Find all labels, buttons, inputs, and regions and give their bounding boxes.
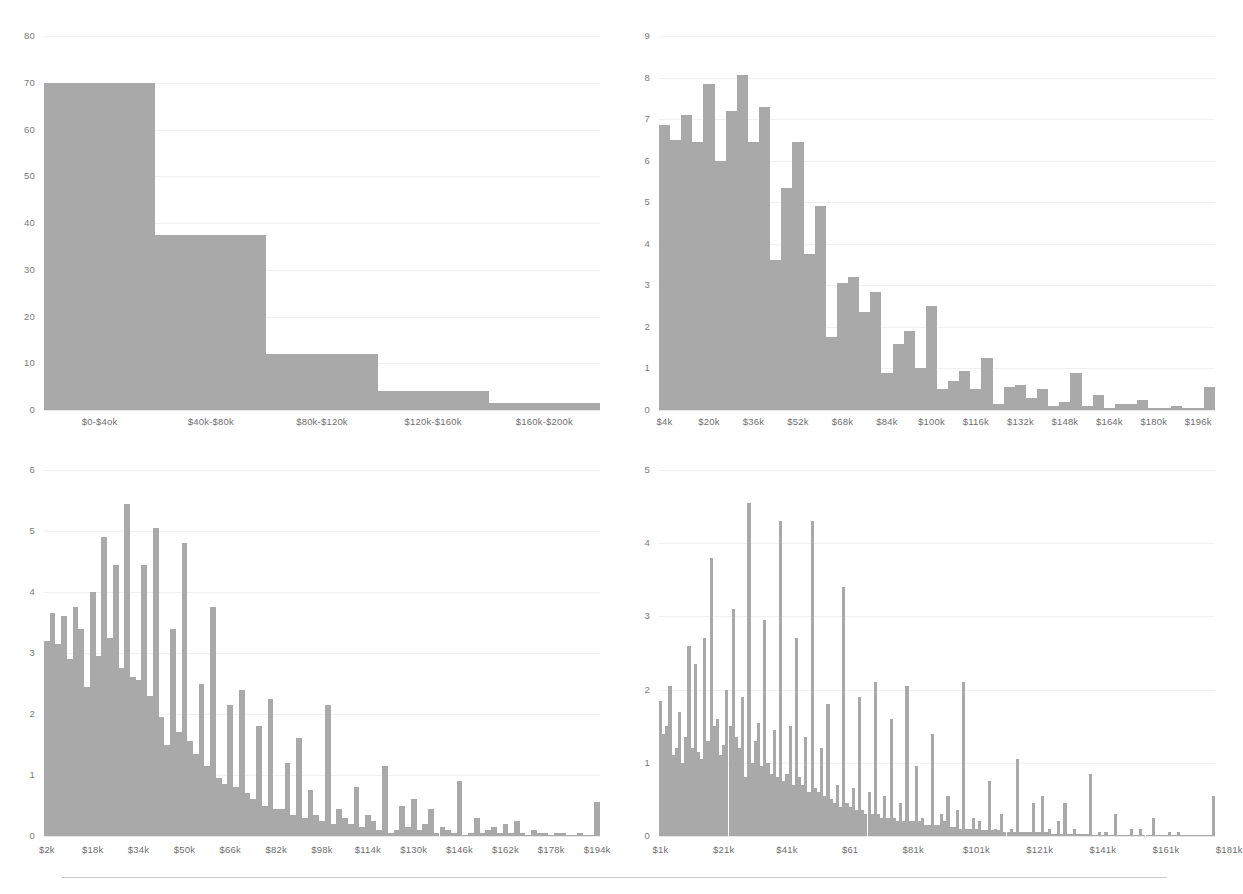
histogram-bar — [926, 306, 937, 410]
x-axis-tick-label: $1k — [653, 844, 669, 855]
gridline — [44, 36, 600, 37]
y-axis-tick-label: 2 — [30, 709, 44, 719]
histogram-bar — [1037, 389, 1048, 410]
y-axis-tick-label: 8 — [645, 73, 659, 83]
histogram-bar — [905, 686, 908, 836]
x-axis-tick-label: $194k — [584, 844, 611, 855]
histogram-bar — [970, 389, 981, 410]
histogram-bar — [1063, 803, 1066, 836]
histogram-bar — [815, 206, 826, 410]
histogram-bar — [692, 142, 703, 410]
x-axis-tick-label: $161k — [1153, 844, 1180, 855]
histogram-bar — [931, 734, 934, 836]
y-axis-tick-label: 5 — [645, 197, 659, 207]
histogram-bar — [1152, 818, 1155, 836]
plot-inner-top-right — [659, 36, 1215, 410]
x-axis-tick-label: $130k — [400, 844, 427, 855]
y-axis-tick-label: 4 — [645, 538, 659, 548]
y-axis-tick-label: 1 — [645, 758, 659, 768]
histogram-bar — [703, 84, 714, 410]
y-axis-tick-label: 70 — [24, 78, 44, 88]
gridline — [659, 410, 1215, 411]
histogram-bar — [1212, 796, 1215, 836]
chart-panel-bottom-left: 0123456 $2k$18k$34k$50k$66k$82k$98k$114k… — [0, 458, 612, 870]
histogram-bar — [1148, 408, 1159, 410]
y-axis-tick-label: 20 — [24, 312, 44, 322]
histogram-bar — [1093, 395, 1104, 410]
gridline — [659, 836, 1215, 837]
gridline — [659, 36, 1215, 37]
histogram-bar — [594, 802, 600, 836]
y-axis-tick-label: 4 — [645, 239, 659, 249]
histogram-bar — [1004, 387, 1015, 410]
x-axis-tick-label: $98k — [311, 844, 332, 855]
gridline — [44, 836, 600, 837]
x-axis-tick-label: $120k-$160k — [405, 416, 462, 427]
histogram-bar — [1082, 406, 1093, 410]
plot-area-top-right: 0123456789 — [659, 36, 1215, 410]
histogram-bar — [1171, 406, 1182, 410]
histogram-bar — [155, 235, 266, 410]
histogram-bar — [792, 142, 803, 410]
x-axis-tick-label: $82k — [265, 844, 286, 855]
x-axis-tick-label: $0-$4ok — [82, 416, 118, 427]
gridline — [659, 616, 1215, 617]
histogram-bar — [457, 781, 463, 836]
histogram-bar — [948, 381, 959, 410]
histogram-bar — [1193, 408, 1204, 410]
x-axis-tick-label: $148k — [1051, 416, 1078, 427]
x-axis-tick-label: $84k — [876, 416, 897, 427]
y-axis-tick-label: 2 — [645, 685, 659, 695]
x-axis-tick-label: $18k — [82, 844, 103, 855]
plot-area-bottom-right: 012345 — [659, 470, 1215, 836]
histogram-bar — [959, 371, 970, 410]
histogram-bar — [962, 682, 965, 836]
histogram-bar — [993, 404, 1004, 410]
histogram-bar — [1032, 803, 1035, 836]
y-axis-tick-label: 2 — [645, 322, 659, 332]
y-axis-tick-label: 6 — [30, 465, 44, 475]
histogram-bar — [874, 682, 877, 836]
histogram-bar — [428, 809, 434, 836]
histogram-bar — [382, 766, 388, 836]
histogram-bar — [1182, 408, 1193, 410]
histogram-bar — [859, 312, 870, 410]
x-axis-top-right: $4k$20k$36k$52k$68k$84k$100k$116k$132k$1… — [659, 416, 1215, 436]
histogram-bar — [904, 331, 915, 410]
histogram-bar — [266, 354, 377, 410]
x-axis-tick-label: $66k — [220, 844, 241, 855]
y-axis-tick-label: 5 — [30, 526, 44, 536]
histogram-bar — [804, 254, 815, 410]
y-axis-tick-label: 6 — [645, 156, 659, 166]
plot-inner-bottom-right — [659, 470, 1215, 836]
plot-inner-top-left — [44, 36, 600, 410]
histogram-bar — [1015, 385, 1026, 410]
y-axis-tick-label: 0 — [30, 405, 44, 415]
plot-area-bottom-left: 0123456 — [44, 470, 600, 836]
histogram-bar — [770, 260, 781, 410]
x-axis-tick-label: $178k — [538, 844, 565, 855]
x-axis-tick-label: $50k — [174, 844, 195, 855]
histogram-bar — [1104, 408, 1115, 410]
x-axis-tick-label: $181k — [1216, 844, 1243, 855]
x-axis-tick-label: $196k — [1185, 416, 1212, 427]
gridline — [659, 690, 1215, 691]
x-axis-top-left: $0-$4ok$40k-$80k$80k-$120k$120k-$160k$16… — [44, 416, 600, 436]
x-axis-tick-label: $81k — [903, 844, 924, 855]
y-axis-tick-label: 5 — [645, 465, 659, 475]
histogram-bar — [44, 83, 155, 410]
histogram-bar — [715, 161, 726, 410]
histogram-bar — [489, 403, 600, 410]
x-axis-tick-label: $180k — [1140, 416, 1167, 427]
x-axis-tick-label: $114k — [355, 844, 381, 855]
histogram-bar — [759, 107, 770, 410]
chart-panel-top-right: 0123456789 $4k$20k$36k$52k$68k$84k$100k$… — [615, 24, 1227, 444]
x-axis-tick-label: $40k-$80k — [188, 416, 234, 427]
histogram-bar — [915, 368, 926, 410]
x-axis-tick-label: $101k — [963, 844, 990, 855]
histogram-bar — [325, 705, 331, 836]
x-axis-tick-label: $36k — [743, 416, 764, 427]
histogram-bar — [893, 344, 904, 410]
histogram-bar — [1070, 373, 1081, 410]
